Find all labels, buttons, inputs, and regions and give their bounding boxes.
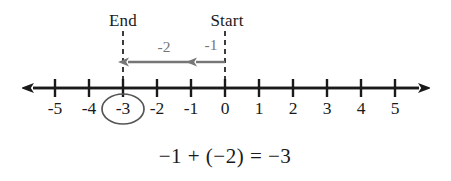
equation-text: −1 + (−2) = −3 [159, 146, 292, 167]
tick-label--5: -5 [48, 100, 63, 118]
tick-label--1: -1 [184, 100, 199, 118]
tick-label-1: 1 [255, 100, 264, 118]
tick-label-5: 5 [391, 100, 400, 118]
tick-label--2: -2 [150, 100, 165, 118]
end-marker-label: End [109, 12, 137, 29]
tick-label-3: 3 [323, 100, 332, 118]
number-line-figure: End Start -2 -1 -5 -4 -3 -2 -1 0 1 2 3 4… [0, 0, 451, 181]
tick-label-4: 4 [357, 100, 366, 118]
tick-label-0: 0 [221, 100, 230, 118]
jump-label-minus-2: -2 [158, 39, 171, 55]
tick-label-2: 2 [289, 100, 298, 118]
tick-label--3: -3 [116, 100, 131, 118]
tick-label--4: -4 [82, 100, 97, 118]
jump-label-minus-1: -1 [205, 37, 218, 53]
start-marker-label: Start [210, 12, 243, 29]
